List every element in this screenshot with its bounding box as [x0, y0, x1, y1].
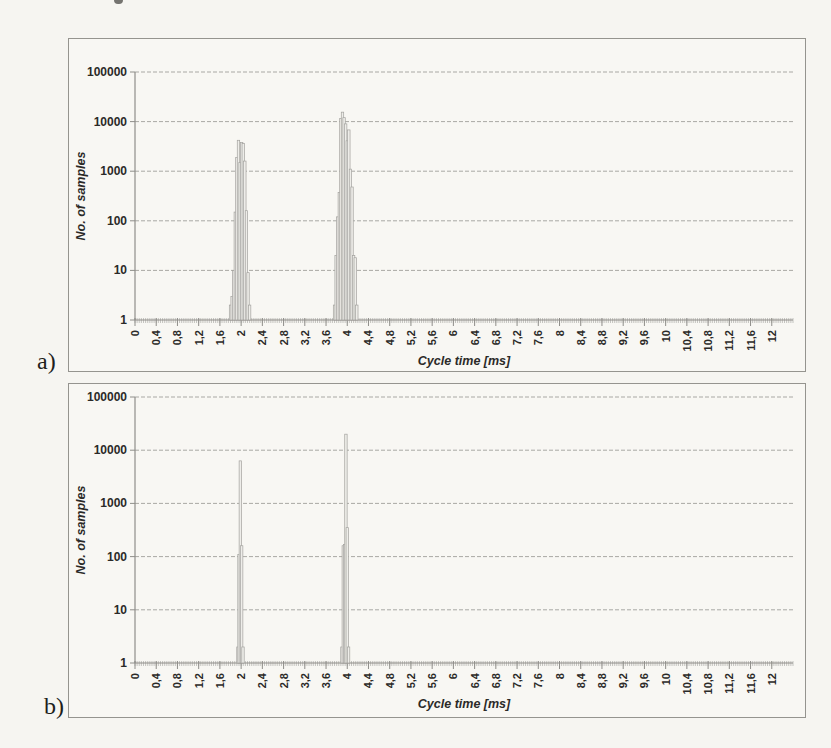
x-tick-label: 2	[235, 330, 247, 336]
x-tick-label: 5,6	[426, 330, 438, 345]
cropped-text-artifact	[114, 0, 123, 4]
histogram-a-canvas: 11010010001000010000000,40,81,21,622,42,…	[69, 39, 805, 371]
x-tick-label: 3,6	[320, 330, 332, 345]
x-tick-label: 2,4	[256, 329, 268, 345]
y-tick-label: 100	[107, 550, 127, 564]
x-tick-label: 5,2	[405, 673, 417, 688]
x-tick-label: 0	[129, 673, 141, 679]
y-tick-label: 1	[120, 313, 127, 327]
x-tick-label: 6,4	[469, 672, 481, 688]
chart-panel-a: 11010010001000010000000,40,81,21,622,42,…	[68, 38, 806, 372]
x-tick-label: 4	[341, 329, 353, 336]
x-tick-label: 0,8	[171, 330, 183, 345]
x-tick-label: 4,4	[362, 672, 374, 688]
x-tick-label: 7,6	[532, 673, 544, 688]
x-tick-label: 8,4	[575, 672, 587, 688]
histogram-b-canvas: 11010010001000010000000,40,81,21,622,42,…	[69, 384, 805, 717]
y-tick-label: 10	[114, 263, 128, 277]
chart-panel-b: 11010010001000010000000,40,81,21,622,42,…	[68, 383, 806, 718]
x-tick-label: 0	[129, 330, 141, 336]
x-tick-label: 3,2	[299, 673, 311, 688]
x-tick-label: 11,2	[723, 673, 735, 694]
y-tick-label: 10000	[94, 115, 128, 129]
x-tick-label: 9,6	[638, 673, 650, 688]
x-tick-label: 10,4	[681, 329, 693, 351]
x-tick-label: 0,8	[171, 673, 183, 688]
x-tick-label: 6	[447, 330, 459, 336]
x-tick-label: 5,2	[405, 330, 417, 345]
y-tick-label: 100000	[87, 65, 127, 79]
x-tick-label: 10,8	[702, 673, 714, 694]
y-axis-title: No. of samples	[74, 152, 88, 241]
histogram-bar	[248, 305, 250, 320]
y-axis-title: No. of samples	[74, 486, 88, 575]
x-tick-label: 7,2	[511, 330, 523, 345]
x-tick-label: 10,8	[702, 330, 714, 351]
x-tick-label: 2,8	[278, 673, 290, 688]
x-tick-label: 3,6	[320, 673, 332, 688]
x-tick-label: 1,6	[214, 673, 226, 688]
y-tick-label: 100	[107, 214, 127, 228]
x-tick-label: 2	[235, 673, 247, 679]
x-tick-label: 10	[660, 330, 672, 342]
x-tick-label: 4	[341, 672, 353, 679]
x-tick-label: 4,4	[362, 329, 374, 345]
y-tick-label: 10000	[94, 443, 128, 457]
x-tick-label: 6,8	[490, 330, 502, 345]
x-tick-label: 7,2	[511, 673, 523, 688]
x-tick-label: 4,8	[384, 330, 396, 345]
x-tick-label: 2,8	[278, 330, 290, 345]
x-tick-label: 1,2	[193, 330, 205, 345]
x-tick-label: 6,4	[469, 329, 481, 345]
y-tick-label: 100000	[87, 390, 127, 404]
x-tick-label: 11,2	[723, 330, 735, 351]
x-tick-label: 9,2	[617, 673, 629, 688]
x-tick-label: 9,6	[638, 330, 650, 345]
x-tick-label: 12	[766, 330, 778, 342]
x-tick-label: 6,8	[490, 673, 502, 688]
x-tick-label: 10,4	[681, 672, 693, 694]
histogram-bar	[347, 647, 349, 663]
histogram-bar	[356, 305, 358, 320]
x-tick-label: 8,8	[596, 330, 608, 345]
x-tick-label: 7,6	[532, 330, 544, 345]
x-axis-title: Cycle time [ms]	[418, 354, 511, 368]
figure-label-a: a)	[37, 349, 56, 373]
x-tick-label: 4,8	[384, 673, 396, 688]
x-tick-label: 5,6	[426, 673, 438, 688]
x-tick-label: 8,4	[575, 329, 587, 345]
x-tick-label: 10	[660, 673, 672, 685]
x-tick-label: 8,8	[596, 673, 608, 688]
y-tick-label: 1	[120, 656, 127, 670]
y-tick-label: 10	[114, 603, 128, 617]
x-tick-label: 3,2	[299, 330, 311, 345]
histogram-bar	[240, 546, 242, 663]
figure-label-b: b)	[44, 694, 64, 718]
x-axis-title: Cycle time [ms]	[418, 697, 511, 711]
x-tick-label: 8	[554, 673, 566, 679]
histogram-bar	[346, 528, 348, 663]
x-tick-label: 11,6	[745, 673, 757, 694]
x-tick-label: 8	[554, 330, 566, 336]
x-tick-label: 1,2	[193, 673, 205, 688]
x-tick-label: 2,4	[256, 672, 268, 688]
x-tick-label: 11,6	[745, 330, 757, 351]
histogram-bar	[242, 647, 244, 663]
x-tick-label: 0,4	[150, 672, 162, 688]
x-tick-label: 0,4	[150, 329, 162, 345]
y-tick-label: 1000	[100, 496, 127, 510]
x-tick-label: 9,2	[617, 330, 629, 345]
y-tick-label: 1000	[100, 164, 127, 178]
x-tick-label: 1,6	[214, 330, 226, 345]
x-tick-label: 6	[447, 673, 459, 679]
x-tick-label: 12	[766, 673, 778, 685]
